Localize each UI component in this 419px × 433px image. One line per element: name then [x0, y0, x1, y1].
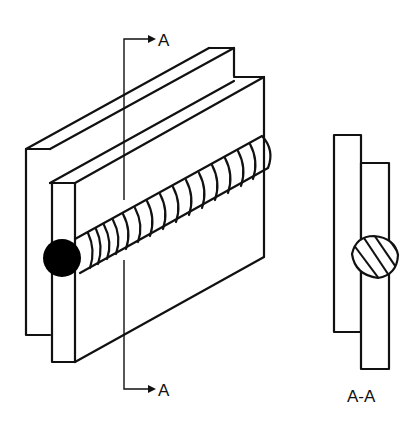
section-back-plate — [334, 135, 361, 332]
section-weld — [340, 232, 410, 284]
section-view-label: A-A — [347, 387, 376, 406]
weld-joint-diagram: A A A-A — [0, 0, 419, 433]
weld-end-fill — [43, 239, 81, 277]
arrow-top-icon — [148, 35, 156, 43]
section-marker-bottom: A — [158, 381, 170, 400]
arrow-bottom-icon — [148, 385, 156, 393]
front-plate — [50, 77, 264, 362]
section-line — [124, 39, 148, 389]
section-marker-top: A — [158, 31, 170, 50]
weld-bead — [75, 136, 270, 273]
